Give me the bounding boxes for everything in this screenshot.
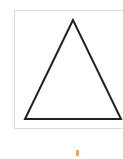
cursor-marker: [76, 150, 79, 156]
triangle-icon[interactable]: [0, 0, 123, 159]
